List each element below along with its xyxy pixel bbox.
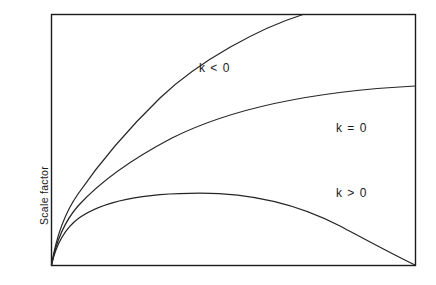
curve-label-k-positive: k > 0 bbox=[336, 186, 367, 200]
curve-label-k-negative: k < 0 bbox=[199, 61, 230, 75]
curve-label-k-zero: k = 0 bbox=[336, 121, 367, 135]
y-axis-label: Scale factor bbox=[38, 65, 50, 225]
plot-area bbox=[0, 0, 436, 285]
figure-container: Scale factor k < 0 k = 0 k > 0 bbox=[0, 0, 436, 285]
